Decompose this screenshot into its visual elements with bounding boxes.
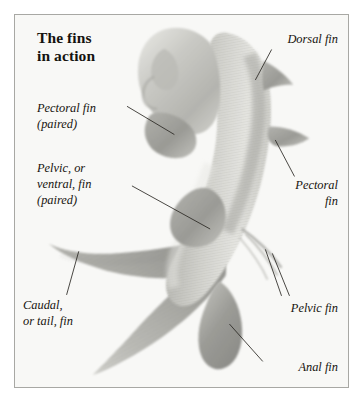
label-pectoral-fin-left: Pectoral fin (paired) [37, 101, 96, 133]
label-dorsal-fin: Dorsal fin [218, 32, 338, 48]
label-pelvic-fin-right: Pelvic fin [242, 301, 338, 317]
label-pelvic-fin-left: Pelvic, or ventral, fin (paired) [37, 161, 91, 209]
fins-in-action-figure: The fins in action Pectoral fin (paired)… [0, 0, 363, 416]
label-caudal-fin: Caudal, or tail, fin [23, 298, 73, 330]
label-pectoral-fin-right: Pectoral fin [242, 178, 338, 210]
page-title: The fins in action [37, 29, 95, 66]
label-anal-fin: Anal fin [242, 360, 338, 376]
illustration-panel: The fins in action Pectoral fin (paired)… [14, 14, 349, 388]
